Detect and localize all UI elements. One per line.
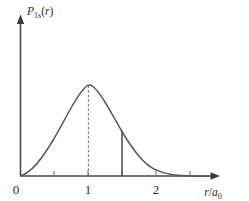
plot-svg: 0 1 2 P1s(r) r/a0: [0, 0, 249, 201]
x-tick-label-2: 2: [153, 182, 160, 197]
probability-density-curve: [21, 85, 210, 176]
x-axis-arrowhead: [211, 172, 221, 179]
y-axis-label-main: P: [26, 5, 34, 17]
x-axis-label: r/a0: [204, 186, 221, 201]
y-axis-label: P1s(r): [26, 5, 53, 20]
y-axis: [17, 15, 24, 177]
x-tick-label-1: 1: [85, 182, 92, 197]
y-axis-label-sub: 1s: [34, 11, 41, 20]
y-axis-arrowhead: [17, 15, 24, 25]
radial-probability-figure: 0 1 2 P1s(r) r/a0: [0, 0, 249, 201]
y-axis-label-close-paren: ): [49, 5, 53, 18]
x-tick-label-0: 0: [13, 182, 20, 197]
x-axis-label-denominator-sub: 0: [218, 192, 222, 201]
